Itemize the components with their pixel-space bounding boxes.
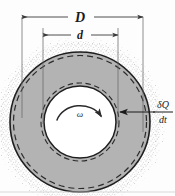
inner-hub-circle [44,86,116,158]
heat-flux-denominator: dt [159,114,167,125]
annulus-diagram-svg: D d ω δQ dt [0,0,175,196]
annular-disk [10,52,150,192]
heat-flux-numerator: δQ [157,99,170,110]
omega-label: ω [77,109,83,119]
figure-container: D d ω δQ dt [0,0,175,196]
dimension-d-label: d [77,28,84,42]
dimension-D-label: D [74,10,85,25]
